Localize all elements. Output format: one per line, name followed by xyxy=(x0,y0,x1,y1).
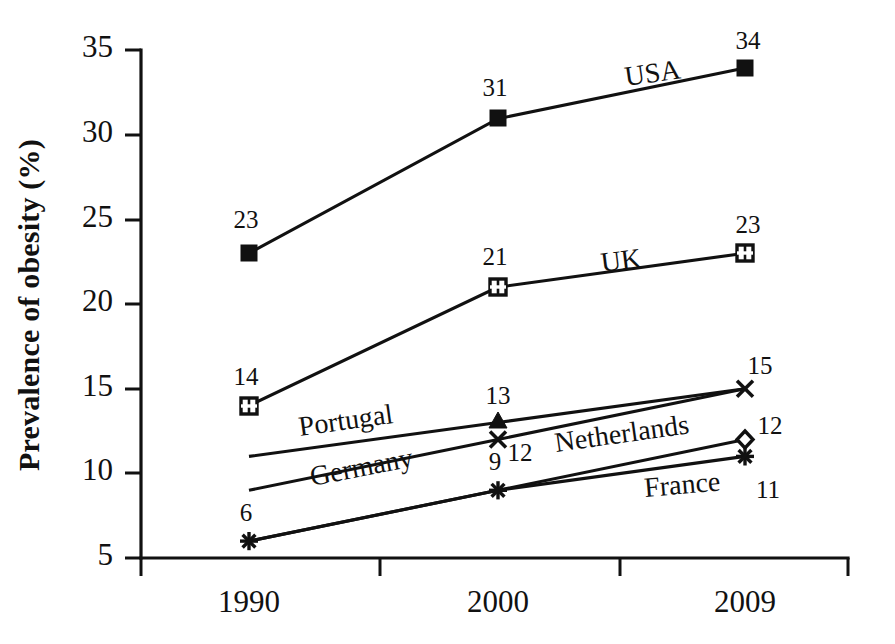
value-label-portugal-2009: 15 xyxy=(748,352,773,379)
marker-netherlands-2009 xyxy=(737,431,753,448)
value-label-usa-2000: 31 xyxy=(483,74,508,101)
series-label-germany: Germany xyxy=(307,442,415,492)
marker-bottom-1990 xyxy=(240,532,258,550)
marker-usa-2009 xyxy=(737,60,753,76)
value-label-usa-2009: 34 xyxy=(736,27,762,54)
value-label-netherlands-2009: 12 xyxy=(758,412,783,439)
marker-france-2009 xyxy=(736,447,754,465)
series-label-portugal: Portugal xyxy=(297,398,395,442)
value-label-uk-2000: 21 xyxy=(483,243,508,270)
marker-uk-2000 xyxy=(490,279,506,295)
y-tick-label-20: 20 xyxy=(82,283,113,318)
marker-uk-1990 xyxy=(241,398,257,414)
series-label-usa: USA xyxy=(623,53,684,92)
series-label-france: France xyxy=(643,465,722,503)
marker-bottom-2000 xyxy=(489,481,507,499)
value-label-bottom-2000: 9 xyxy=(489,448,502,475)
y-tick-label-30: 30 xyxy=(82,114,113,149)
value-label-germany-2000: 12 xyxy=(508,439,533,466)
series-label-netherlands: Netherlands xyxy=(553,408,691,458)
x-tick-label-1990: 1990 xyxy=(218,584,280,619)
value-label-portugal-2000: 13 xyxy=(486,382,511,409)
series-label-uk: UK xyxy=(599,242,643,278)
axis-group: 35 30 25 20 15 10 5 1990 2000 2009 xyxy=(82,29,848,619)
y-tick-label-10: 10 xyxy=(82,452,113,487)
marker-usa-2000 xyxy=(490,110,506,126)
plot-area: 35 30 25 20 15 10 5 1990 2000 2009 xyxy=(0,0,895,644)
marker-portugal-2000 xyxy=(489,412,507,428)
obesity-line-chart: Prevalence of obesity (%) 35 30 25 20 15… xyxy=(0,0,895,644)
marker-usa-1990 xyxy=(241,245,257,261)
x-tick-label-2009: 2009 xyxy=(714,584,776,619)
marker-uk-2009 xyxy=(737,245,753,261)
y-tick-label-25: 25 xyxy=(82,199,113,234)
value-label-uk-1990: 14 xyxy=(234,363,260,390)
y-tick-label-5: 5 xyxy=(98,537,114,572)
value-label-bottom-1990: 6 xyxy=(240,499,253,526)
value-label-usa-1990: 23 xyxy=(234,206,259,233)
x-tick-label-2000: 2000 xyxy=(467,584,529,619)
value-label-uk-2009: 23 xyxy=(736,211,761,238)
value-label-france-2009: 11 xyxy=(756,476,780,503)
y-tick-label-15: 15 xyxy=(82,368,113,403)
y-tick-label-35: 35 xyxy=(82,29,113,64)
